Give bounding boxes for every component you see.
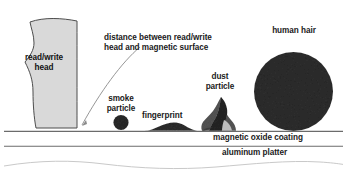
dust-particle-label: dust particle [196, 72, 244, 91]
hard-disk-contaminant-diagram: read/write head distance between read/wr… [0, 0, 347, 179]
smoke-particle-shape [113, 115, 128, 130]
fingerprint-label: fingerprint [142, 111, 200, 121]
human-hair-shape [254, 52, 333, 131]
read-write-head-shape [25, 19, 77, 129]
platter-bottom-wave [4, 161, 343, 168]
fingerprint-shape [144, 123, 197, 131]
aluminum-platter-label: aluminum platter [222, 148, 334, 158]
magnetic-oxide-coating-label: magnetic oxide coating [213, 133, 341, 143]
read-write-head-label: read/write head [18, 53, 70, 72]
human-hair-label: human hair [262, 26, 326, 36]
smoke-particle-label: smoke particle [98, 94, 144, 113]
distance-annotation-label: distance between read/write head and mag… [104, 33, 236, 52]
